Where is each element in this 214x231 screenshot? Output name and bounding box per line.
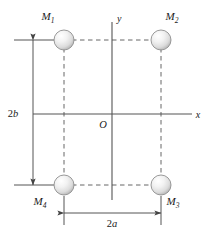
diagram-canvas: M1 M2 M3 M4 y x O 2b 2a (0, 0, 214, 231)
mass-label-m2: M2 (165, 10, 179, 25)
mass-label-m4: M4 (33, 195, 47, 210)
mass-sphere-m2 (151, 30, 171, 50)
origin-label: O (99, 119, 107, 130)
dimension-label-2b: 2b (8, 108, 19, 119)
y-axis-label: y (116, 13, 122, 24)
mass-label-m1: M1 (41, 10, 55, 25)
coordinate-axes (33, 22, 192, 200)
x-axis-label: x (195, 109, 201, 120)
physics-diagram: M1 M2 M3 M4 y x O 2b 2a (0, 0, 214, 231)
mass-sphere-m1 (54, 30, 74, 50)
mass-sphere-m3 (151, 175, 171, 195)
dimension-label-2a: 2a (107, 218, 118, 229)
axis-labels: y x O (99, 13, 201, 130)
mass-label-m3: M3 (166, 195, 180, 210)
mass-sphere-m4 (54, 175, 74, 195)
